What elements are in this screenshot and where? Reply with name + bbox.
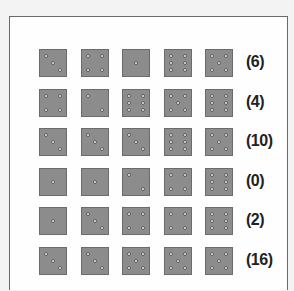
row-score: (6) [246,53,264,71]
pip [86,68,90,72]
pip [127,226,131,230]
pip [100,108,104,112]
pip [58,108,62,112]
pip [210,212,214,216]
pip [51,180,55,184]
pip [183,68,187,72]
pip [134,61,138,65]
die-5-icon [205,128,233,156]
pip [44,252,48,256]
pip [141,226,145,230]
pip [183,187,187,191]
pip [210,219,214,223]
pip [224,252,228,256]
pip [127,108,131,112]
pip [224,133,228,137]
pip [141,266,145,270]
die-6-icon [164,49,192,77]
pip [210,187,214,191]
pip [183,54,187,58]
die-4-icon [122,207,150,235]
pip [51,259,55,263]
pip [169,187,173,191]
die-6-icon [122,89,150,117]
pip [86,212,90,216]
die-4-icon [164,168,192,196]
pip [183,108,187,112]
pip [100,266,104,270]
pip [224,94,228,98]
die-4-icon [39,89,67,117]
pip [224,266,228,270]
pip [210,54,214,58]
die-2-icon [81,89,109,117]
pip [210,101,214,105]
pip [169,94,173,98]
pip [210,173,214,177]
pip [210,133,214,137]
pip [169,140,173,144]
pip [127,212,131,216]
pip [127,94,131,98]
pip [210,252,214,256]
pip [141,94,145,98]
pip [93,140,97,144]
die-4-icon [164,207,192,235]
pip [224,147,228,151]
pip [183,266,187,270]
pip [127,252,131,256]
pip [183,140,187,144]
pip [224,173,228,177]
die-1-icon [39,168,67,196]
die-3-icon [122,128,150,156]
pip [51,219,55,223]
puzzle-frame: (6)(4)(10)(0)(2)(16) [9,16,288,290]
pip [217,140,221,144]
pip [210,226,214,230]
pip [210,266,214,270]
pip [44,94,48,98]
pip [86,94,90,98]
pip [224,226,228,230]
dice-row: (10) [10,128,287,158]
pip [44,108,48,112]
die-3-icon [39,128,67,156]
pip [183,133,187,137]
die-5-icon [164,89,192,117]
pip [100,68,104,72]
row-score: (16) [246,251,272,269]
pip [224,180,228,184]
pip [169,61,173,65]
pip [224,101,228,105]
pip [169,252,173,256]
die-6-icon [205,207,233,235]
pip [169,108,173,112]
die-6-icon [164,128,192,156]
dice-row: (0) [10,168,287,198]
pip [224,54,228,58]
pip [169,266,173,270]
pip [58,68,62,72]
die-4-icon [81,49,109,77]
pip [127,133,131,137]
pip [224,108,228,112]
dice-row: (2) [10,207,287,237]
die-5-icon [205,247,233,275]
pip [134,140,138,144]
pip [217,61,221,65]
die-1-icon [81,168,109,196]
pip [58,94,62,98]
die-2-icon [122,168,150,196]
pip [86,252,90,256]
pip [224,212,228,216]
die-6-icon [205,89,233,117]
pip [127,266,131,270]
dice-row: (4) [10,89,287,119]
pip [86,133,90,137]
pip [183,226,187,230]
die-3-icon [81,247,109,275]
pip [141,187,145,191]
pip [169,54,173,58]
pip [134,259,138,263]
pip [169,147,173,151]
